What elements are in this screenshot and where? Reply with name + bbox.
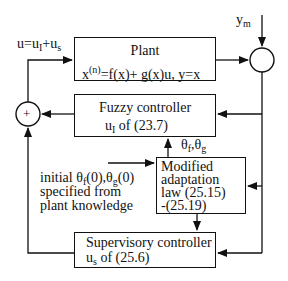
label-part: u — [105, 118, 112, 133]
label-part: (n) — [89, 64, 101, 75]
plant-block: Plant x(n)=f(x)+ g(x)u, y=x — [74, 37, 216, 81]
label-part: of (25.6) — [97, 250, 150, 265]
adaptation-line-4: -(25.19) — [161, 198, 207, 213]
label-part: u=u — [17, 36, 39, 51]
supervisory-controller-block: Supervisory controller us of (25.6) — [74, 232, 216, 268]
label-part: g — [201, 143, 206, 154]
initial-params-note-line-3: plant knowledge — [40, 198, 133, 213]
fuzzy-controller-ref: uI of (23.7) — [105, 118, 168, 137]
label-part: =f(x)+ g(x)u, y=x — [101, 67, 201, 82]
fuzzy-controller-title: Fuzzy controller — [75, 100, 215, 115]
label-part: x — [82, 67, 89, 82]
plant-equation: x(n)=f(x)+ g(x)u, y=x — [82, 62, 200, 82]
label-part: +u — [42, 36, 57, 51]
comparator-circle — [250, 48, 274, 72]
label-part: ,θ — [191, 137, 201, 152]
initial-params-note-line-2: specified from — [40, 184, 121, 199]
plant-title: Plant — [75, 43, 215, 58]
supervisory-controller-ref: us of (25.6) — [86, 250, 149, 269]
control-signal-label: u=uI+us — [17, 36, 61, 55]
label-part: of (23.7) — [115, 118, 168, 133]
label-part: y — [236, 12, 243, 27]
reference-input-label: ym — [236, 12, 251, 31]
adaptation-law-block: Modified adaptation law (25.15) -(25.19) — [156, 157, 246, 214]
label-part: m — [243, 18, 251, 29]
label-part: θ — [181, 137, 188, 152]
label-part: s — [57, 42, 61, 53]
label-part: (0) — [118, 170, 134, 185]
plus-symbol: + — [23, 106, 30, 121]
label-part: initial θ — [40, 170, 83, 185]
label-part: (0),θ — [86, 170, 113, 185]
supervisory-controller-title: Supervisory controller — [86, 235, 212, 250]
label-part: u — [86, 250, 93, 265]
control-to-plant-arrow — [28, 60, 72, 102]
parameters-label: θf,θg — [181, 137, 206, 156]
fuzzy-controller-block: Fuzzy controller uI of (23.7) — [74, 94, 216, 137]
